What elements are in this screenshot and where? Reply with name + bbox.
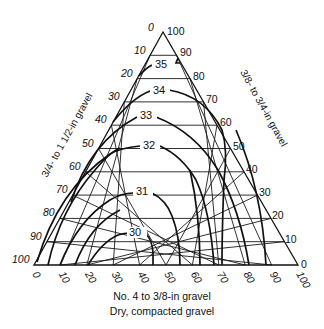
bottom-tick: 0 [30, 269, 43, 280]
bottom-tick: 90 [268, 269, 284, 285]
right-tick: 80 [193, 70, 205, 82]
left-tick: 30 [108, 90, 120, 102]
left-tick: 40 [95, 113, 107, 125]
right-tick: 40 [246, 163, 258, 175]
left-tick: 0 [148, 21, 154, 33]
bottom-tick: 20 [83, 268, 100, 285]
left-tick: 100 [12, 253, 30, 265]
right-tick: 100 [167, 25, 185, 37]
right-tick: 90 [180, 46, 192, 58]
contour-32 [37, 146, 214, 265]
bottom-tick: 80 [241, 269, 257, 285]
contour-label-32: 32 [143, 139, 155, 151]
bottom-axis-label: No. 4 to 3/8-in gravel [0, 290, 324, 302]
right-tick: 20 [272, 209, 284, 221]
right-tick: 30 [259, 186, 271, 198]
right-axis-ticks: 100 90 80 70 60 50 40 30 20 10 0 [167, 25, 307, 270]
left-tick: 10 [134, 44, 146, 56]
ternary-diagram: 35 34 33 32 31 30 0 10 20 30 40 50 60 70… [0, 0, 324, 329]
right-tick: 50 [233, 140, 245, 152]
bottom-tick: 60 [189, 269, 205, 285]
bottom-tick: 100 [294, 269, 313, 290]
right-tick: 0 [301, 258, 307, 270]
contour-label-33: 33 [140, 109, 152, 121]
left-tick: 70 [56, 183, 68, 195]
left-tick: 20 [120, 67, 133, 79]
right-tick: 10 [285, 233, 297, 245]
contour-label-30: 30 [129, 226, 141, 238]
right-axis-label: 3/8- to 3/4-in gravel [238, 68, 289, 149]
bottom-tick: 50 [162, 269, 178, 285]
contour-label-35: 35 [155, 58, 167, 70]
left-tick: 60 [69, 160, 81, 172]
right-tick: 60 [220, 116, 232, 128]
right-tick: 70 [206, 93, 218, 105]
left-tick: 50 [82, 137, 94, 149]
contour-outer-left-1 [48, 148, 120, 265]
bottom-tick: 10 [57, 269, 73, 285]
bottom-tick: 40 [136, 269, 152, 285]
left-tick: 80 [43, 206, 55, 218]
left-tick: 90 [30, 230, 42, 242]
diagram-subtitle: Dry, compacted gravel [0, 305, 324, 317]
bottom-tick: 70 [215, 269, 231, 285]
bottom-axis-ticks: 0102030405060708090100 [30, 268, 313, 290]
contour-label-34: 34 [153, 84, 165, 96]
bottom-tick: 30 [109, 269, 125, 285]
contour-label-31: 31 [136, 185, 148, 197]
